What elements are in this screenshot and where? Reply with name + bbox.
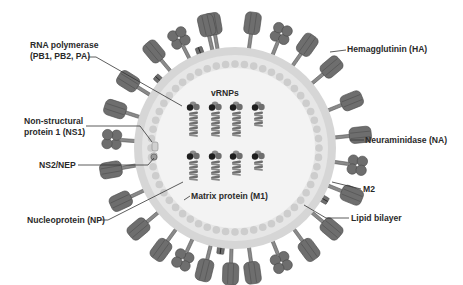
matrix-bead xyxy=(179,79,187,87)
matrix-bead xyxy=(187,73,195,81)
influenza-virion-diagram: RNA polymerase (PB1, PB2, PA) Non-struct… xyxy=(0,0,463,285)
matrix-bead xyxy=(297,197,305,205)
matrix-bead xyxy=(291,85,299,93)
matrix-bead xyxy=(231,228,239,236)
matrix-bead xyxy=(302,189,310,197)
label-line: Non-structural xyxy=(24,116,85,127)
ns1-protein xyxy=(152,142,158,151)
matrix-bead xyxy=(284,79,292,87)
matrix-bead xyxy=(291,204,299,212)
matrix-bead xyxy=(259,65,267,73)
matrix-bead xyxy=(166,92,174,100)
matrix-bead xyxy=(268,220,276,228)
matrix-bead xyxy=(166,197,174,205)
label-rna-polymerase: RNA polymerase (PB1, PB2, PA) xyxy=(30,40,88,62)
matrix-bead xyxy=(313,163,321,171)
matrix-bead xyxy=(259,223,267,231)
matrix-bead xyxy=(152,172,160,180)
matrix-bead xyxy=(302,100,310,108)
label-nucleoprotein: Nucleoprotein (NP) xyxy=(27,215,105,226)
matrix-bead xyxy=(284,210,292,218)
label-matrix: Matrix protein (M1) xyxy=(191,191,268,202)
matrix-bead xyxy=(203,65,211,73)
label-m2: M2 xyxy=(363,184,375,195)
ns2-protein xyxy=(151,154,157,160)
label-vrnps: vRNPs xyxy=(211,88,239,99)
matrix-bead xyxy=(222,228,230,236)
matrix-bead xyxy=(315,144,323,152)
matrix-bead xyxy=(276,215,284,223)
matrix-bead xyxy=(213,62,221,70)
label-hemagglutinin: Hemagglutinin (HA) xyxy=(347,44,427,55)
matrix-bead xyxy=(297,92,305,100)
matrix-bead xyxy=(213,226,221,234)
matrix-bead xyxy=(149,163,157,171)
matrix-bead xyxy=(187,215,195,223)
matrix-bead xyxy=(172,85,180,93)
matrix-bead xyxy=(310,172,318,180)
label-line: protein 1 (NS1) xyxy=(24,127,85,138)
label-lipid-bilayer: Lipid bilayer xyxy=(351,213,402,224)
matrix-bead xyxy=(231,60,239,68)
matrix-bead xyxy=(156,108,164,116)
matrix-bead xyxy=(179,210,187,218)
matrix-bead xyxy=(203,223,211,231)
matrix-bead xyxy=(315,154,323,162)
matrix-bead xyxy=(172,204,180,212)
matrix-bead xyxy=(310,116,318,124)
matrix-bead xyxy=(268,69,276,77)
leader-hemagglutinin xyxy=(330,50,346,52)
matrix-bead xyxy=(152,116,160,124)
matrix-bead xyxy=(149,126,157,134)
matrix-bead xyxy=(313,126,321,134)
matrix-bead xyxy=(315,135,323,143)
label-line: (PB1, PB2, PA) xyxy=(30,51,88,62)
matrix-bead xyxy=(241,61,249,69)
matrix-bead xyxy=(156,181,164,189)
label-ns2: NS2/NEP xyxy=(39,160,76,171)
matrix-bead xyxy=(250,62,258,70)
matrix-bead xyxy=(307,108,315,116)
matrix-bead xyxy=(160,100,168,108)
matrix-bead xyxy=(195,220,203,228)
label-line: RNA polymerase xyxy=(30,40,88,51)
surface-protein-ha xyxy=(222,243,239,285)
matrix-bead xyxy=(250,226,258,234)
matrix-bead xyxy=(276,73,284,81)
matrix-bead xyxy=(222,61,230,69)
matrix-bead xyxy=(195,69,203,77)
matrix-bead xyxy=(307,181,315,189)
label-neuraminidase: Neuraminidase (NA) xyxy=(365,135,447,146)
matrix-bead xyxy=(241,228,249,236)
label-ns1: Non-structural protein 1 (NS1) xyxy=(24,116,85,138)
